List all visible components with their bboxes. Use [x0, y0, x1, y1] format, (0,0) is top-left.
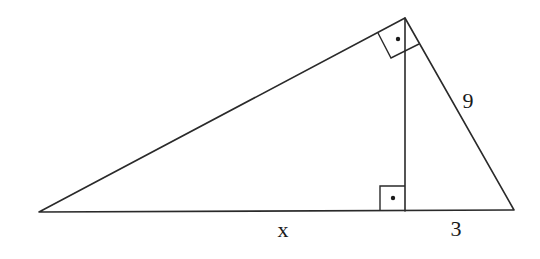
right-angle-mark-apex: [378, 33, 419, 58]
main-triangle: [39, 18, 514, 212]
label-9: 9: [463, 88, 474, 113]
right-angle-dot-foot: [391, 196, 395, 200]
label-x: x: [278, 217, 289, 242]
label-3: 3: [451, 216, 462, 241]
right-angle-dot-apex: [396, 37, 400, 41]
triangle-diagram: x 3 9: [0, 0, 540, 259]
